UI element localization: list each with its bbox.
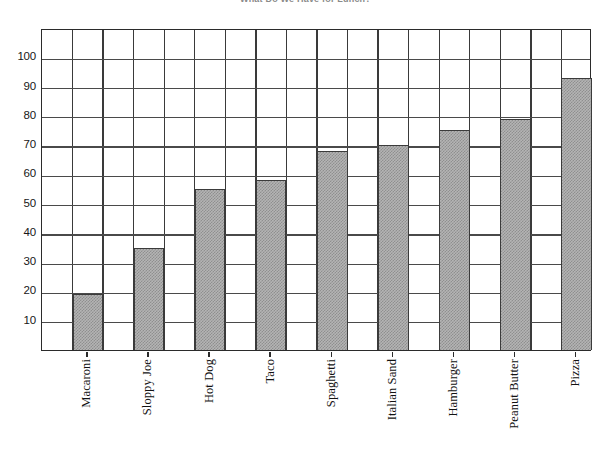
y-axis-tick-label: 30 [0,255,36,267]
y-axis-tick-label: 40 [0,226,36,238]
bar [256,180,287,350]
x-axis-tick-label: Spaghetti [324,359,339,407]
x-axis: MacaroniSloppy JoeHot DogTacoSpaghettiIt… [41,352,591,449]
plot-area [41,29,591,351]
x-axis-tick-mark [575,352,576,357]
chart-title: What Do We Have for Lunch? [0,0,611,3]
y-axis-tick-label: 70 [0,138,36,150]
x-axis-tick-label: Hamburger [446,359,461,417]
bar [561,78,592,350]
y-axis-tick-label: 50 [0,197,36,209]
x-axis-tick-label: Italian Sand [385,359,400,420]
x-axis-tick-label: Hot Dog [202,359,217,403]
bar [195,189,226,350]
x-axis-tick-mark [208,352,209,357]
x-axis-tick-mark [453,352,454,357]
bar [317,151,348,350]
x-axis-tick-mark [86,352,87,357]
y-axis-tick-label: 80 [0,109,36,121]
x-axis-tick-mark [392,352,393,357]
y-axis-tick-label: 60 [0,167,36,179]
y-axis-tick-label: 10 [0,314,36,326]
x-axis-tick-label: Sloppy Joe [140,359,155,415]
bar [134,248,165,350]
bar-chart: What Do We Have for Lunch? 1020304050607… [0,0,611,449]
x-axis-tick-mark [269,352,270,357]
bar [378,145,409,350]
y-axis-tick-label: 100 [0,50,36,62]
y-axis-tick-label: 20 [0,284,36,296]
horizontal-gridline [42,59,590,60]
horizontal-gridline [42,88,590,89]
x-axis-tick-label: Macaroni [79,359,94,408]
x-axis-tick-label: Pizza [568,359,583,387]
y-axis-tick-label: 90 [0,80,36,92]
x-axis-tick-mark [514,352,515,357]
bar [73,294,104,350]
x-axis-tick-mark [147,352,148,357]
bar [500,119,531,350]
x-axis-tick-label: Peanut Butter [507,359,522,429]
bar [439,130,470,350]
x-axis-tick-label: Taco [263,359,278,384]
x-axis-tick-mark [331,352,332,357]
